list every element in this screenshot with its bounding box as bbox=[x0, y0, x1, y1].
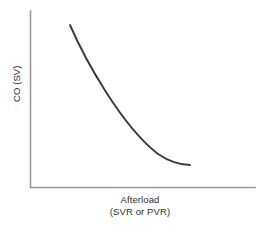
x-axis-label-line1: Afterload bbox=[62, 194, 218, 206]
x-axis-label-line2: (SVR or PVR) bbox=[62, 206, 218, 218]
y-axis-label-text: CO (SV) bbox=[11, 65, 22, 102]
chart-figure: Afterload (SVR or PVR) CO (SV) bbox=[0, 0, 274, 225]
chart-axes bbox=[31, 11, 256, 188]
x-axis-label: Afterload (SVR or PVR) bbox=[62, 194, 218, 217]
y-axis-label: CO (SV) bbox=[11, 44, 23, 124]
plot-area bbox=[0, 0, 274, 225]
data-curve-cardiac-output bbox=[70, 25, 190, 165]
